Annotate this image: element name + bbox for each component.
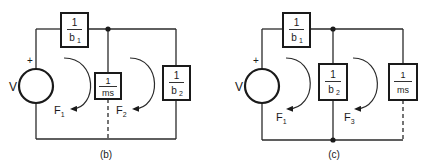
source-plus-sign: + [253, 55, 259, 66]
loop-label-f2: F2 [116, 104, 127, 118]
voltage-source-icon [19, 69, 53, 103]
svg-text:1: 1 [72, 17, 78, 28]
caption-b: (b) [100, 149, 112, 160]
svg-text:b: b [328, 84, 334, 95]
svg-text:b: b [171, 85, 177, 96]
circuit-b: + V 1 b 1 1 ms 1 b 2 F1 [9, 13, 190, 160]
svg-text:b: b [291, 32, 297, 43]
svg-text:2: 2 [179, 90, 183, 97]
source-label: V [235, 80, 243, 94]
element-1-over-b2: 1 b 2 [163, 66, 190, 100]
svg-text:ms: ms [102, 88, 114, 98]
svg-text:1: 1 [400, 70, 405, 80]
svg-text:1: 1 [294, 17, 300, 28]
circuit-c: + V 1 b 1 1 b 2 1 ms F1 [235, 13, 417, 160]
element-1-over-b1: 1 b 1 [283, 13, 310, 47]
svg-text:1: 1 [174, 70, 180, 81]
element-1-over-ms: 1 ms [389, 64, 417, 100]
loop-label-f1: F1 [276, 111, 287, 125]
svg-text:1: 1 [105, 76, 110, 86]
svg-text:2: 2 [336, 89, 340, 96]
loop-arrow-icon [286, 58, 310, 109]
loop-label-f1: F1 [54, 104, 65, 118]
element-1-over-ms: 1 ms [95, 73, 121, 99]
source-label: V [9, 80, 17, 94]
source-plus-sign: + [27, 55, 33, 66]
svg-text:ms: ms [397, 85, 409, 95]
circuit-diagram-figure: + V 1 b 1 1 ms 1 b 2 F1 [0, 0, 421, 166]
element-1-over-b2: 1 b 2 [319, 64, 347, 100]
loop-arrow-icon [64, 58, 91, 109]
junction-dot [330, 26, 335, 31]
voltage-source-icon [245, 69, 279, 103]
loop-arrow-icon [353, 58, 377, 109]
svg-text:1: 1 [299, 37, 303, 44]
junction-dot [105, 26, 110, 31]
loop-arrow-icon [130, 58, 155, 109]
svg-text:b: b [69, 32, 75, 43]
svg-text:1: 1 [330, 69, 336, 80]
element-1-over-b1: 1 b 1 [61, 13, 88, 47]
loop-label-f3: F3 [344, 111, 355, 125]
caption-c: (c) [328, 149, 340, 160]
svg-text:1: 1 [77, 37, 81, 44]
junction-dot [330, 137, 335, 142]
